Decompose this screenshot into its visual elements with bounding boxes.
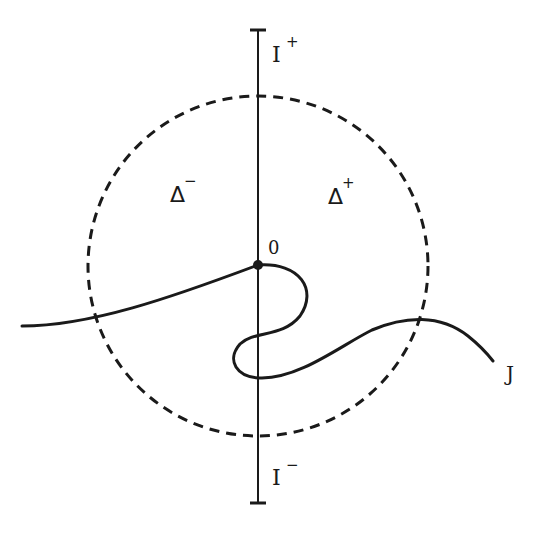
- label-i-plus-sup: +: [286, 33, 299, 51]
- origin-label: 0: [268, 237, 279, 258]
- label-i-minus-sup: −: [286, 456, 299, 474]
- label-i-minus-main: I: [272, 465, 281, 490]
- label-i-minus: I −: [272, 456, 299, 490]
- label-delta-minus: Δ −: [170, 172, 197, 207]
- label-i-plus-main: I: [272, 42, 281, 67]
- label-delta-minus-sup: −: [184, 172, 197, 190]
- label-delta-plus-main: Δ: [328, 184, 343, 209]
- label-i-plus: I +: [272, 33, 299, 67]
- origin-point: [253, 260, 263, 270]
- label-delta-plus: Δ +: [328, 174, 355, 209]
- label-delta-plus-sup: +: [342, 174, 355, 192]
- diagram-figure: I + I − Δ − Δ + 0 J: [0, 0, 537, 535]
- label-delta-minus-main: Δ: [170, 182, 185, 207]
- curve-label-j: J: [504, 362, 514, 386]
